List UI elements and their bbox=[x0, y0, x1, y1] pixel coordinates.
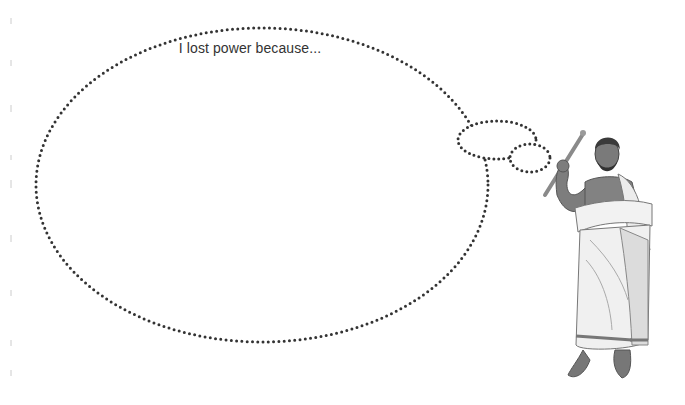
thought-bubble-large bbox=[36, 28, 488, 342]
thought-bubble-small bbox=[510, 144, 550, 172]
thought-bubble-graphic bbox=[0, 0, 685, 405]
worksheet-canvas: I lost power because... bbox=[0, 0, 685, 405]
thought-bubble-text: I lost power because... bbox=[150, 40, 350, 56]
robed-figure-illustration bbox=[545, 130, 652, 378]
